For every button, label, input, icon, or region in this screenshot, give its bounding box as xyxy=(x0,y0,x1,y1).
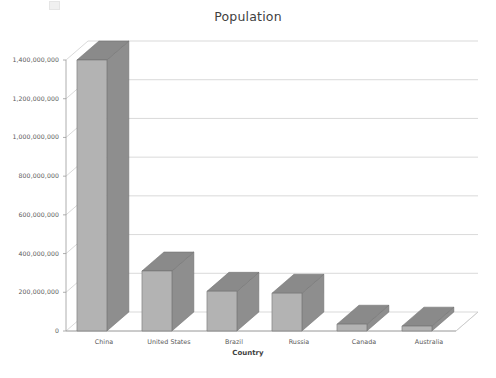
bar-front-face xyxy=(272,293,302,331)
x-axis-tick-label: Australia xyxy=(384,338,474,346)
bar-front-face xyxy=(142,271,172,331)
bar-side-face xyxy=(107,41,129,331)
y-axis-tick-label: 400,000,000 xyxy=(0,250,59,257)
y-axis-tick-label: 1,400,000,000 xyxy=(0,56,59,63)
y-axis-tick-label: 1,000,000,000 xyxy=(0,133,59,140)
bar-front-face xyxy=(77,60,107,331)
y-axis-tick-label: 0 xyxy=(0,327,59,334)
chart-canvas xyxy=(0,0,496,378)
population-bar-chart: Population 0200,000,000400,000,000600,00… xyxy=(0,0,496,378)
x-axis-title: Country xyxy=(0,349,496,357)
bar-front-face xyxy=(337,324,367,331)
bar-front-face xyxy=(207,291,237,331)
y-axis-tick-label: 800,000,000 xyxy=(0,172,59,179)
y-axis-tick-label: 600,000,000 xyxy=(0,211,59,218)
y-axis-tick-label: 1,200,000,000 xyxy=(0,95,59,102)
y-axis-tick-label: 200,000,000 xyxy=(0,288,59,295)
bar-front-face xyxy=(402,326,432,331)
